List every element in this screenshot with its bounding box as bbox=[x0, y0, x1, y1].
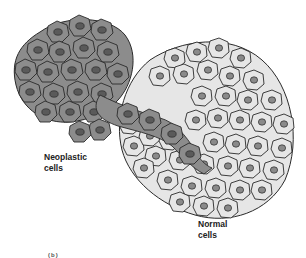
neoplastic-cells-label: Neoplastic cells bbox=[44, 152, 87, 174]
normal-label-line1: Normal bbox=[198, 219, 227, 230]
neoplastic-label-line1: Neoplastic bbox=[44, 152, 87, 163]
normal-label-line2: cells bbox=[198, 230, 227, 241]
cell-invasion-diagram bbox=[0, 0, 306, 258]
neoplastic-label-line2: cells bbox=[44, 163, 87, 174]
partial-caption: (b) bbox=[48, 250, 59, 258]
normal-cells-label: Normal cells bbox=[198, 219, 227, 241]
